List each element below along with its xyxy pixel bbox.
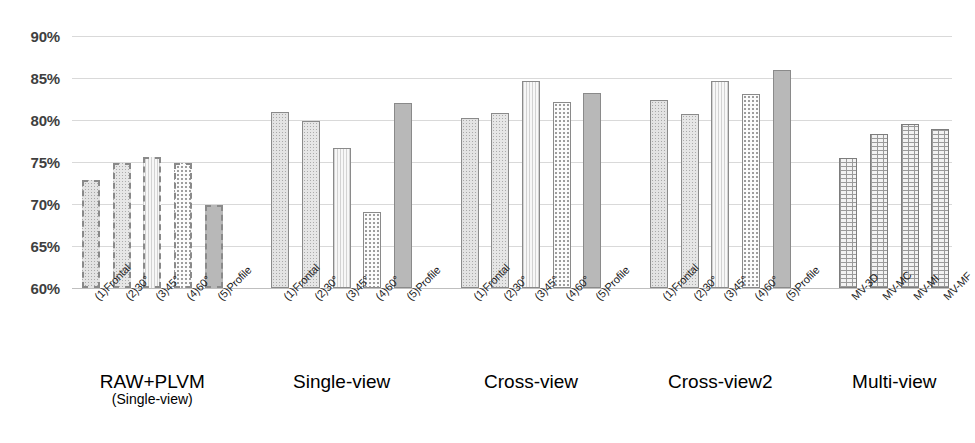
group-label: Cross-view: [421, 372, 641, 392]
group-label-text: Cross-view2: [668, 371, 773, 392]
group-label-text: RAW+PLVM: [100, 371, 205, 392]
group-label-text: Cross-view: [484, 371, 578, 392]
group-label: Multi-view: [784, 372, 975, 392]
group-label: Single-view: [232, 372, 452, 392]
group-label-text: Single-view: [293, 371, 390, 392]
group-label: RAW+PLVM(Single-view): [42, 372, 262, 406]
group-label-text: Multi-view: [852, 371, 936, 392]
group-label-sub: (Single-view): [42, 392, 262, 406]
